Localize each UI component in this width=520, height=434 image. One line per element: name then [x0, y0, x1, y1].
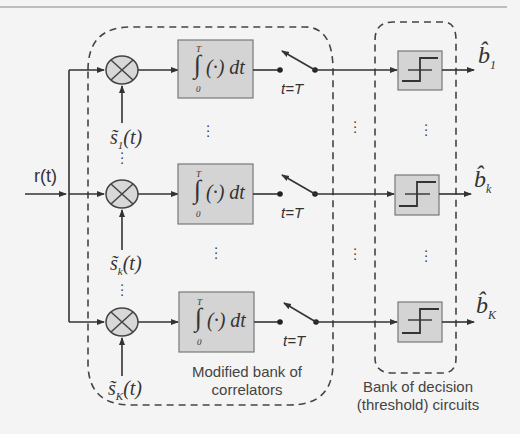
reference-signal-k: s̃k(t) — [110, 252, 142, 277]
ellipsis: ··· — [119, 150, 125, 165]
reference-signal-1: s̃1(t) — [110, 126, 142, 151]
integral-sign-icon: ∫ — [195, 303, 202, 333]
sample-switch-label-K: t=T — [283, 332, 305, 349]
integral-sign-icon: ∫ — [194, 50, 201, 80]
ellipsis: ··· — [213, 245, 219, 260]
integrator-k: T ∫ (·) dt 0 — [194, 169, 254, 221]
ellipsis: ··· — [423, 122, 429, 137]
ellipsis: ··· — [352, 119, 358, 134]
integral-sign-icon: ∫ — [194, 175, 201, 205]
integrator-K: T ∫ (·) dt 0 — [195, 297, 255, 349]
input-signal-label: r(t) — [34, 166, 57, 187]
ellipsis: ··· — [352, 246, 358, 261]
diagram-canvas: r(t) s̃1(t) s̃k(t) s̃K(t) T ∫ (·) dt 0 T… — [0, 0, 520, 434]
reference-signal-K: s̃K(t) — [108, 377, 142, 402]
ellipsis: ··· — [119, 282, 125, 297]
integrator-1: T ∫ (·) dt 0 — [194, 44, 254, 96]
sample-switch-label-k: t=T — [281, 204, 303, 221]
output-estimate-K: b̂K — [476, 292, 496, 323]
sample-switch-label-1: t=T — [281, 80, 303, 97]
decision-bank-caption: Bank of decision (threshold) circuits — [348, 378, 488, 414]
output-estimate-1: b̂1 — [478, 42, 496, 73]
ellipsis: ··· — [205, 123, 211, 138]
correlator-bank-caption: Modified bank of correlators — [172, 363, 322, 399]
ellipsis: ··· — [423, 248, 429, 263]
output-estimate-k: b̂k — [474, 166, 491, 197]
